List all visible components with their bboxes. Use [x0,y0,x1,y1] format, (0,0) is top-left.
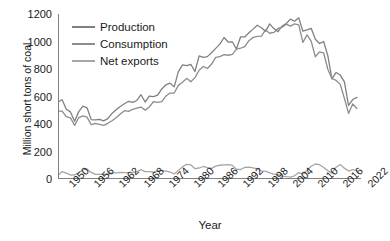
legend-label-net-exports: Net exports [100,55,159,67]
y-axis-tick-labels: 020040060080010001200 [6,14,52,179]
x-axis-tick-label: 1986 [215,181,223,189]
x-axis-tick-label: 1968 [141,181,149,189]
x-axis-tick-label: 1992 [240,181,248,189]
y-axis-tick-label: 400 [10,118,52,130]
chart-legend: Production Consumption Net exports [72,18,202,69]
legend-swatch-consumption [72,43,95,45]
y-axis-tick-label: 800 [10,63,52,75]
x-axis-tick-label: 1962 [116,181,124,189]
y-axis-tick-label: 1000 [10,36,52,48]
x-axis-tick-label: 1956 [91,181,99,189]
x-axis-tick-label: 1974 [166,181,174,189]
y-axis-tick-label: 1200 [10,8,52,20]
legend-label-consumption: Consumption [100,38,168,50]
x-axis-title: Year [60,219,360,231]
legend-item-production: Production [72,18,202,35]
legend-swatch-production [72,26,95,28]
x-axis-tick-label: 2004 [290,181,298,189]
x-axis-tick-label: 2016 [340,181,348,189]
x-axis-tick-labels: 1950195619621968197419801986199219982004… [58,181,361,217]
legend-item-net-exports: Net exports [72,52,202,69]
x-axis-tick-label: 2010 [315,181,323,189]
legend-item-consumption: Consumption [72,35,202,52]
y-axis-tick-label: 200 [10,146,52,158]
x-axis-tick-label: 2022 [365,181,373,189]
legend-label-production: Production [100,21,155,33]
y-axis-tick-label: 0 [10,173,52,185]
legend-swatch-net-exports [72,60,95,62]
x-axis-tick-label: 1998 [265,181,273,189]
x-axis-tick-label: 1980 [191,181,199,189]
x-axis-tick-label: 1950 [66,181,74,189]
y-axis-tick-label: 600 [10,91,52,103]
